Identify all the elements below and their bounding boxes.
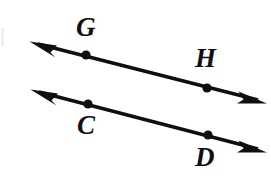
point-label-g: G xyxy=(76,14,96,41)
line-cd-arrow-right-icon xyxy=(237,141,267,153)
line-cd-segment xyxy=(39,92,258,149)
point-label-h: H xyxy=(195,45,216,72)
geometry-figure: G H C D xyxy=(0,0,271,180)
line-gh-group xyxy=(30,42,268,104)
line-cd-group xyxy=(31,90,268,153)
point-h-dot xyxy=(202,83,211,92)
point-label-c: C xyxy=(77,112,95,139)
line-gh-segment xyxy=(38,44,258,100)
point-c-dot xyxy=(83,99,92,108)
point-label-d: D xyxy=(195,144,215,171)
point-g-dot xyxy=(81,50,90,59)
line-gh-arrow-left-icon xyxy=(30,42,58,58)
line-cd-arrow-left-icon xyxy=(31,90,59,106)
point-d-dot xyxy=(203,130,212,139)
geometry-canvas xyxy=(0,0,271,180)
